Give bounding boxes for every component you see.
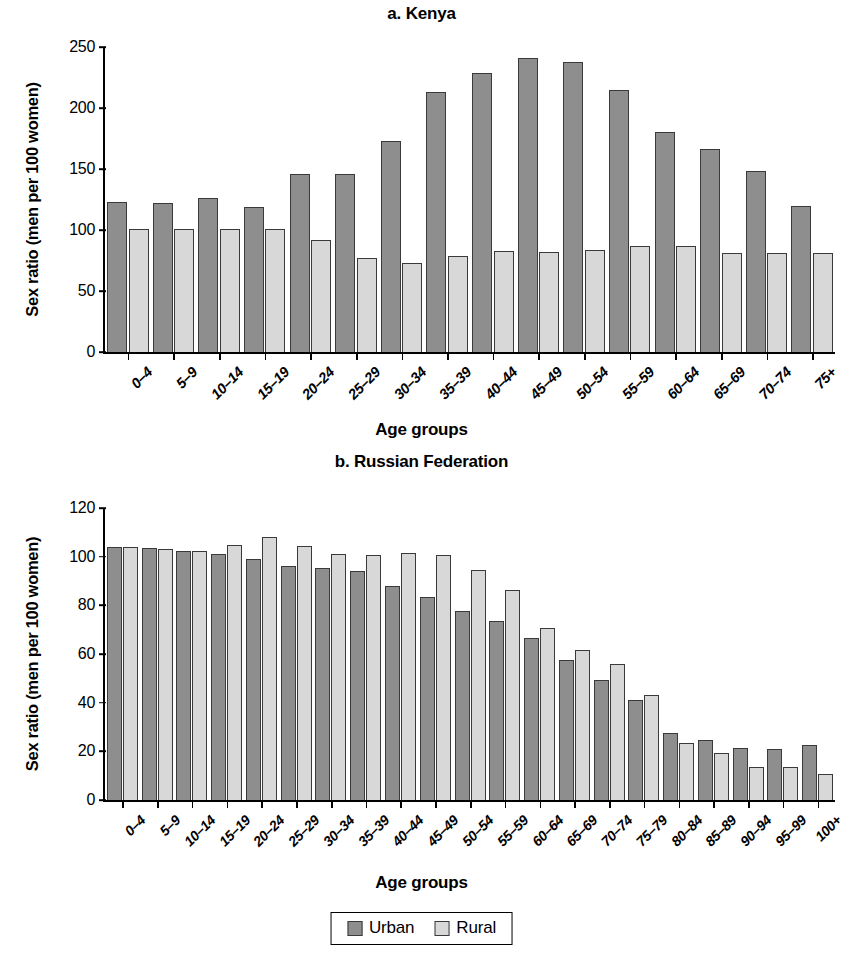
bar-urban (426, 92, 446, 352)
x-tick-mark (128, 352, 130, 360)
y-axis-title-russian-federation: Sex ratio (men per 100 women) (22, 508, 42, 800)
bar-group (607, 47, 653, 352)
y-tick-label: 100 (69, 222, 95, 238)
bar-urban (472, 73, 492, 352)
legend-label-rural: Rural (456, 918, 496, 938)
bar-rural (129, 229, 149, 352)
x-tick-label: 90–94 (737, 812, 774, 849)
bar-group (140, 508, 175, 800)
x-tick-mark (173, 352, 175, 360)
bar-group (314, 508, 349, 800)
bar-rural (402, 263, 422, 352)
y-axis-ticks-kenya: 050100150200250 (51, 47, 95, 352)
y-tick-label: 50 (78, 283, 95, 299)
bar-group (453, 508, 488, 800)
x-tick-label: 40–44 (482, 364, 520, 402)
bar-group (209, 508, 244, 800)
x-tick-mark (675, 352, 677, 360)
y-axis-title-kenya: Sex ratio (men per 100 women) (22, 47, 42, 352)
bar-group (383, 508, 418, 800)
x-tick-label: 80–84 (667, 812, 704, 849)
bar-group (557, 508, 592, 800)
y-tick-label: 200 (69, 100, 95, 116)
x-tick-mark (219, 352, 221, 360)
x-tick-mark (538, 352, 540, 360)
y-tick-label: 250 (69, 39, 95, 55)
x-tick-mark (366, 800, 368, 808)
bar-rural (357, 258, 377, 352)
bar-urban (381, 141, 401, 352)
bar-urban (663, 733, 678, 800)
bar-group (789, 47, 835, 352)
x-tick-label: 35–39 (355, 812, 392, 849)
x-tick-mark (447, 352, 449, 360)
x-tick-label: 40–44 (389, 812, 426, 849)
x-tick-label: 0–4 (128, 364, 156, 392)
x-tick-mark (470, 800, 472, 808)
x-tick-label: 95–99 (772, 812, 809, 849)
bar-urban (107, 547, 122, 800)
x-axis-labels-russian-federation: 0–45–910–1415–1920–2425–2930–3435–3940–4… (105, 812, 835, 882)
bar-rural (644, 695, 659, 800)
plot-area-kenya: Sex ratio (men per 100 women) 0501001502… (0, 0, 843, 445)
bar-group (175, 508, 210, 800)
x-tick-mark (122, 800, 124, 808)
bar-rural (265, 229, 285, 352)
y-tick-label: 100 (69, 549, 95, 565)
x-tick-label: 15–19 (254, 364, 292, 402)
x-tick-label: 60–64 (528, 812, 565, 849)
x-tick-label: 60–64 (664, 364, 702, 402)
bar-urban (746, 171, 766, 352)
bar-urban (350, 571, 365, 800)
bar-urban (198, 198, 218, 352)
y-axis-ticks-russian-federation: 020406080100120 (51, 508, 95, 800)
x-tick-mark (644, 800, 646, 808)
bar-group (333, 47, 379, 352)
bar-group (800, 508, 835, 800)
bar-rural (297, 546, 312, 800)
bar-group (105, 47, 151, 352)
x-tick-label: 75+ (812, 364, 840, 392)
bar-rural (630, 246, 650, 352)
x-tick-label: 50–54 (459, 812, 496, 849)
bar-rural (813, 253, 833, 352)
bar-group (470, 47, 516, 352)
x-tick-label: 25–29 (285, 812, 322, 849)
x-tick-label: 100+ (811, 812, 843, 844)
x-tick-label: 65–69 (710, 364, 748, 402)
bar-group (244, 508, 279, 800)
bar-rural (676, 246, 696, 352)
bar-urban (524, 638, 539, 800)
x-tick-label: 70–74 (755, 364, 793, 402)
bar-urban (142, 548, 157, 800)
x-tick-mark (505, 800, 507, 808)
bar-rural (436, 555, 451, 800)
y-tick-label: 20 (78, 743, 95, 759)
bar-group (766, 508, 801, 800)
x-tick-label: 35–39 (436, 364, 474, 402)
bar-rural (311, 240, 331, 352)
x-tick-label: 10–14 (181, 812, 218, 849)
bar-rural (366, 555, 381, 800)
bar-group (522, 508, 557, 800)
chart-panel-russian-federation: b. Russian Federation Sex ratio (men per… (0, 448, 843, 903)
x-tick-mark (713, 800, 715, 808)
bar-group (698, 47, 744, 352)
x-tick-mark (540, 800, 542, 808)
bar-group (696, 508, 731, 800)
bar-group (626, 508, 661, 800)
bar-rural (401, 553, 416, 800)
x-tick-label: 45–49 (527, 364, 565, 402)
x-tick-mark (630, 352, 632, 360)
bar-urban (420, 597, 435, 800)
bar-group (279, 508, 314, 800)
chart-panel-kenya: a. Kenya Sex ratio (men per 100 women) 0… (0, 0, 843, 445)
bar-urban (518, 58, 538, 352)
x-tick-label: 55–59 (619, 364, 657, 402)
x-tick-mark (310, 352, 312, 360)
x-tick-label: 45–49 (424, 812, 461, 849)
bar-rural (227, 545, 242, 801)
bar-urban (385, 586, 400, 800)
x-tick-mark (402, 352, 404, 360)
x-tick-mark (818, 800, 820, 808)
